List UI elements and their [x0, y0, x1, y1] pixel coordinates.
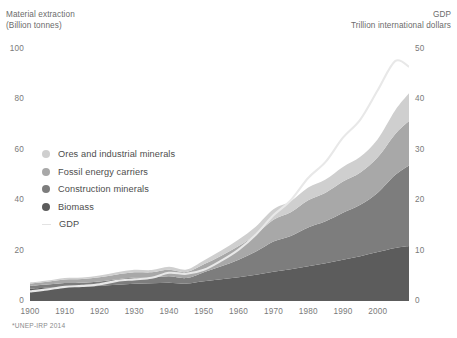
left-axis-title: Material extraction (Billion tonnes)	[6, 10, 75, 31]
right-axis-title: GDP Trillion international dollars	[351, 10, 451, 31]
legend: Ores and industrial mineralsFossil energ…	[42, 149, 175, 229]
right-axis-tick: 40	[415, 94, 443, 103]
left-axis-tick: 40	[0, 195, 24, 204]
legend-swatch-line-icon	[42, 224, 51, 225]
legend-swatch-dot-icon	[42, 168, 50, 176]
left-axis-tick: 100	[0, 44, 24, 53]
legend-item-label: Construction minerals	[58, 184, 149, 194]
left-axis-tick: 60	[0, 145, 24, 154]
left-axis-tick: 0	[0, 296, 24, 305]
legend-item[interactable]: Construction minerals	[42, 184, 175, 194]
legend-swatch-dot-icon	[42, 203, 50, 211]
material-extraction-gdp-chart: Material extraction (Billion tonnes) GDP…	[0, 0, 457, 338]
right-axis-tick: 30	[415, 145, 443, 154]
legend-swatch-dot-icon	[42, 150, 50, 158]
legend-item[interactable]: Ores and industrial minerals	[42, 149, 175, 159]
legend-item-label: Ores and industrial minerals	[58, 149, 175, 159]
legend-item[interactable]: Fossil energy carriers	[42, 167, 175, 177]
x-axis-tick: 2000	[358, 307, 398, 316]
legend-item-label: Biomass	[58, 202, 94, 212]
right-axis-tick: 10	[415, 246, 443, 255]
right-axis-tick: 0	[415, 296, 443, 305]
left-axis-tick: 20	[0, 246, 24, 255]
right-axis-tick: 20	[415, 195, 443, 204]
right-axis-tick: 50	[415, 44, 443, 53]
legend-swatch-dot-icon	[42, 185, 50, 193]
legend-item-label: GDP	[59, 219, 79, 229]
footnote: *UNEP-IRP 2014	[12, 322, 65, 329]
legend-item[interactable]: GDP	[42, 219, 175, 229]
legend-item-label: Fossil energy carriers	[58, 167, 148, 177]
left-axis-tick: 80	[0, 94, 24, 103]
legend-item[interactable]: Biomass	[42, 202, 175, 212]
